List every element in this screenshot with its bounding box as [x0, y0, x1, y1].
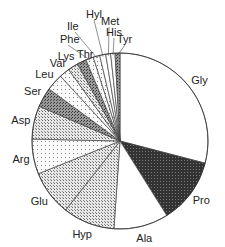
label-ala: Ala — [136, 232, 153, 244]
label-pro: Pro — [193, 194, 210, 206]
label-hyp: Hyp — [72, 228, 92, 240]
label-glu: Glu — [31, 195, 48, 207]
pie-slices — [32, 53, 208, 229]
label-ile: Ile — [67, 20, 79, 32]
label-arg: Arg — [12, 153, 29, 165]
label-hyl: Hyl — [86, 8, 102, 20]
leader-line — [113, 38, 114, 55]
label-lys: Lys — [58, 50, 75, 62]
label-phe: Phe — [60, 33, 80, 45]
label-asp: Asp — [11, 114, 30, 126]
label-leu: Leu — [35, 68, 53, 80]
label-ser: Ser — [24, 85, 41, 97]
label-tyr: Tyr — [117, 33, 133, 45]
label-gly: Gly — [191, 74, 208, 86]
label-thr: Thr — [77, 48, 94, 60]
pie-chart: GlyProAlaHypGluArgAspSerLeuValLysThrPheI… — [0, 0, 225, 247]
